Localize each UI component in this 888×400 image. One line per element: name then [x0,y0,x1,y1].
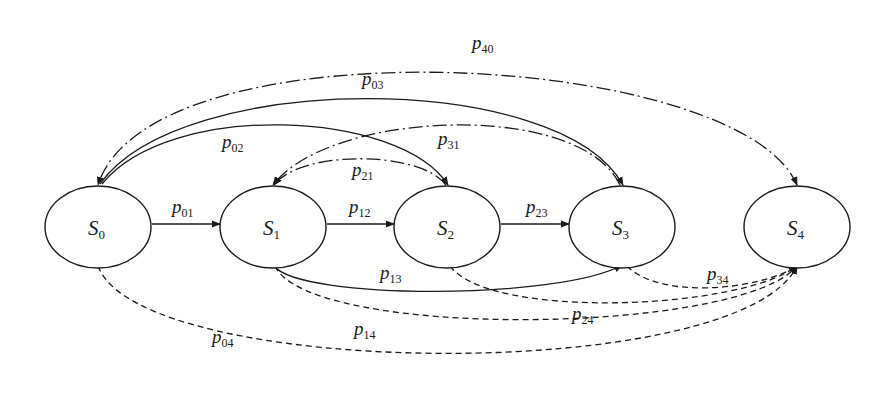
edge-p13 [274,265,622,291]
label-p31: p31 [436,128,460,152]
label-p12: p12 [347,196,371,220]
state-s2: S2 [394,186,500,268]
state-s4: S4 [744,186,850,268]
edge-p02 [102,125,448,185]
state-transition-diagram: S0 S1 S2 S3 S4 p40 p03 p02 p31 p21 p01 p… [0,0,888,400]
label-p24: p24 [570,303,594,327]
label-p04: p04 [210,326,234,350]
label-p13: p13 [378,262,402,286]
state-s0: S0 [45,186,151,268]
label-p02: p02 [220,131,244,155]
edge-p04 [98,266,797,353]
label-p23: p23 [524,196,548,220]
label-p40: p40 [470,32,494,56]
label-p03: p03 [360,68,384,92]
state-s3: S3 [569,186,675,268]
label-p21: p21 [350,159,374,183]
state-s1: S1 [220,186,326,268]
label-p14: p14 [352,318,376,342]
label-p34: p34 [705,263,729,287]
edge-p40 [98,72,797,185]
label-p01: p01 [170,196,194,220]
